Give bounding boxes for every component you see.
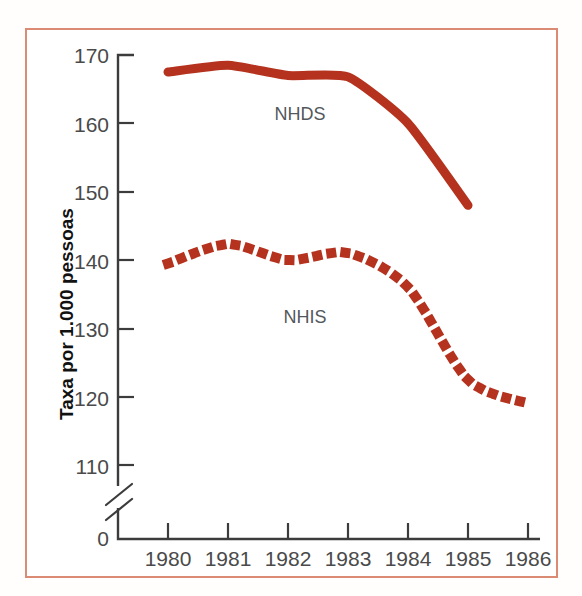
x-tick-label-1982: 1982 <box>265 547 312 570</box>
y-tick-label-160: 160 <box>74 113 109 136</box>
series-line-nhds <box>168 65 468 205</box>
y-tick-label-130: 130 <box>74 318 109 341</box>
y-tick-label-170: 170 <box>74 44 109 67</box>
y-axis-spine-lower <box>118 508 540 539</box>
y-tick-label-0: 0 <box>97 527 109 550</box>
x-tick-label-1981: 1981 <box>205 547 252 570</box>
series-annotation-nhds: NHDS <box>274 104 325 124</box>
series-group <box>168 65 528 403</box>
chart-page: Taxa por 1.000 pessoas 170 160 150 140 1… <box>0 0 582 596</box>
y-tick-label-110: 110 <box>76 455 109 478</box>
x-tick-label-1984: 1984 <box>385 547 432 570</box>
x-tick-label-1980: 1980 <box>145 547 192 570</box>
x-tick-label-1986: 1986 <box>505 547 552 570</box>
y-tick-label-140: 140 <box>74 250 109 273</box>
x-tick-label-1983: 1983 <box>325 547 372 570</box>
y-tick-label-120: 120 <box>74 387 109 410</box>
series-annotation-nhis: NHIS <box>283 307 326 327</box>
line-chart: Taxa por 1.000 pessoas 170 160 150 140 1… <box>0 0 582 596</box>
y-axis-spine-upper <box>118 55 134 486</box>
x-tick-label-1985: 1985 <box>445 547 492 570</box>
y-tick-label-150: 150 <box>74 181 109 204</box>
series-line-nhis <box>168 244 528 403</box>
